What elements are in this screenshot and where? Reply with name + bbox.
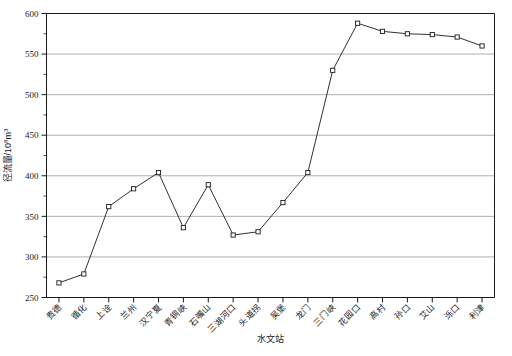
data-point-marker — [455, 35, 459, 39]
data-point-marker — [306, 170, 310, 174]
data-series-markers — [57, 21, 484, 285]
y-tick-label: 550 — [25, 49, 39, 59]
data-point-marker — [356, 21, 360, 25]
x-category-label: 吴堡 — [268, 302, 288, 322]
data-point-marker — [181, 226, 185, 230]
data-point-marker — [57, 281, 61, 285]
x-category-label: 高村 — [368, 302, 388, 322]
x-category-label: 循化 — [69, 302, 89, 322]
data-series-line — [59, 23, 482, 283]
svg-text:径流量/108m3: 径流量/108m3 — [2, 128, 13, 182]
chart-canvas: 250300350400450500550600 贵德循化上诠兰州汉宁夏青铜峡石… — [0, 0, 512, 356]
data-point-marker — [331, 68, 335, 72]
plot-frame — [47, 14, 495, 298]
x-category-label: 头道拐 — [237, 302, 263, 328]
x-category-label: 上诠 — [94, 302, 114, 322]
x-category-label: 贵德 — [44, 302, 64, 322]
y-tick-label: 250 — [25, 293, 39, 303]
y-tick-label: 450 — [25, 130, 39, 140]
x-category-label: 三门峡 — [311, 302, 337, 328]
data-point-marker — [82, 272, 86, 276]
data-point-marker — [107, 205, 111, 209]
x-axis-category-labels: 贵德循化上诠兰州汉宁夏青铜峡石嘴山三湖河口头道拐吴堡龙门三门峡花园口高村孙口艾山… — [44, 302, 487, 335]
y-tick-label: 350 — [25, 212, 39, 222]
x-category-label: 利津 — [467, 302, 487, 322]
x-category-label: 兰州 — [119, 302, 139, 322]
x-category-label: 花园口 — [336, 302, 362, 328]
x-category-label: 汉宁夏 — [137, 302, 163, 328]
data-point-marker — [281, 200, 285, 204]
y-axis-title: 径流量/108m3 — [2, 128, 13, 182]
y-axis-tick-labels: 250300350400450500550600 — [25, 9, 39, 303]
y-tick-label: 600 — [25, 9, 39, 19]
x-category-label: 龙门 — [293, 302, 313, 322]
y-tick-label: 400 — [25, 171, 39, 181]
runoff-line-chart: 250300350400450500550600 贵德循化上诠兰州汉宁夏青铜峡石… — [0, 0, 512, 356]
x-category-label: 艾山 — [417, 302, 437, 322]
data-point-marker — [430, 33, 434, 37]
data-point-marker — [480, 44, 484, 48]
data-point-marker — [256, 230, 260, 234]
x-category-label: 孙口 — [393, 302, 413, 322]
x-category-label: 泺口 — [442, 302, 462, 322]
data-point-marker — [380, 29, 384, 33]
data-point-marker — [405, 32, 409, 36]
x-axis-ticks — [59, 298, 482, 303]
x-axis-title: 水文站 — [257, 333, 284, 344]
data-point-marker — [231, 233, 235, 237]
data-point-marker — [132, 187, 136, 191]
y-tick-label: 300 — [25, 252, 39, 262]
data-point-marker — [206, 183, 210, 187]
x-category-label: 青铜峡 — [162, 302, 188, 328]
grid-lines — [47, 54, 495, 257]
y-tick-label: 500 — [25, 90, 39, 100]
data-point-marker — [156, 170, 160, 174]
